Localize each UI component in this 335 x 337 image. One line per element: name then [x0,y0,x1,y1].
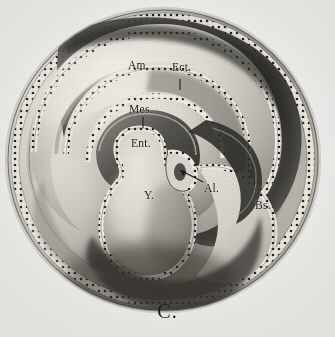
illustration-canvas [0,0,335,337]
yolk-sac-highlight [109,169,153,241]
figure-plate: Am. Ect. Mes. Ent. Y. Al. Bs. C. [0,0,335,337]
figure-caption: C. [0,300,335,323]
